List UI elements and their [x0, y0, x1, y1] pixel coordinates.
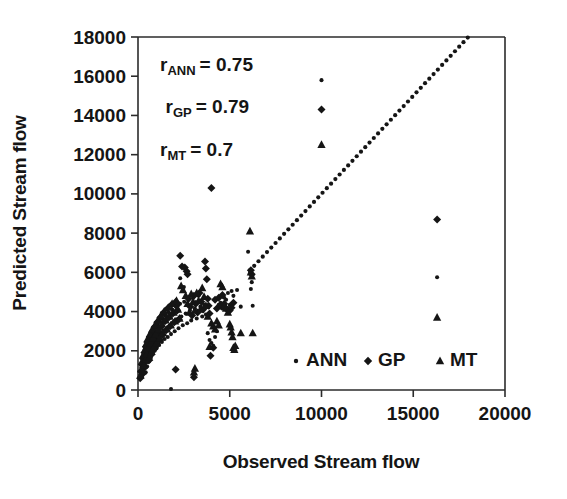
reference-line-dot	[410, 95, 414, 99]
reference-line-dot	[273, 241, 277, 245]
y-tick-label: 2000	[84, 340, 126, 361]
reference-line-dot	[376, 131, 380, 135]
y-axis-tick-labels: 0200040006000800010000120001400016000180…	[73, 27, 126, 401]
y-tick-label: 18000	[73, 27, 126, 48]
annotation-r-mt: rMT= 0.7	[160, 139, 233, 163]
reference-line-dot	[291, 223, 295, 227]
data-point-ann	[213, 335, 217, 339]
data-point-mt	[198, 284, 206, 292]
series-ann-points	[139, 78, 439, 391]
x-tick-label: 10000	[295, 403, 348, 424]
reference-line-dot	[385, 122, 389, 126]
reference-line-dot	[427, 77, 431, 81]
y-axis-ticks	[131, 37, 138, 390]
reference-line-dot	[449, 54, 453, 58]
reference-line-dot	[414, 90, 418, 94]
reference-line-dot	[295, 218, 299, 222]
data-point-ann	[435, 275, 439, 279]
data-point-mt	[317, 140, 325, 148]
data-point-gp	[172, 365, 180, 373]
y-tick-label: 4000	[84, 301, 126, 322]
data-point-mt	[231, 341, 239, 349]
reference-line-dot	[359, 150, 363, 154]
legend-marker-mt	[436, 356, 444, 364]
annotation-r-ann: rANN= 0.75	[160, 54, 253, 78]
reference-line-dot	[269, 245, 273, 249]
reference-line-dot	[252, 264, 256, 268]
data-point-ann	[319, 78, 323, 82]
reference-line-dot	[423, 81, 427, 85]
reference-line-dot	[440, 63, 444, 67]
data-point-gp	[318, 106, 326, 114]
reference-line-dot	[372, 136, 376, 140]
reference-line-dot	[308, 204, 312, 208]
reference-line-dot	[393, 113, 397, 117]
data-point-ann	[185, 321, 189, 325]
reference-line-dot	[329, 182, 333, 186]
reference-line-dot	[406, 99, 410, 103]
correlation-annotations: rANN= 0.75rGP= 0.79rMT= 0.7	[160, 54, 253, 162]
x-tick-label: 0	[133, 403, 144, 424]
y-tick-label: 6000	[84, 262, 126, 283]
data-point-ann	[181, 323, 185, 327]
data-point-gp	[206, 352, 214, 360]
y-tick-label: 16000	[73, 66, 126, 87]
data-point-ann	[178, 276, 182, 280]
reference-line-dot	[303, 209, 307, 213]
legend-label-ann: ANN	[306, 349, 347, 370]
data-point-ann	[235, 288, 239, 292]
reference-line-dot	[320, 191, 324, 195]
x-axis-title: Observed Stream flow	[223, 451, 420, 472]
reference-line-dot	[367, 140, 371, 144]
one-to-one-reference-line	[248, 35, 470, 272]
reference-line-dot	[316, 195, 320, 199]
y-tick-label: 14000	[73, 105, 126, 126]
data-point-gp	[176, 252, 184, 260]
data-point-ann	[246, 250, 250, 254]
data-point-ann	[173, 329, 177, 333]
data-point-gp	[203, 275, 211, 283]
y-tick-label: 12000	[73, 144, 126, 165]
data-point-gp	[433, 215, 441, 223]
annotation-value: = 0.7	[190, 139, 233, 160]
data-point-ann	[231, 294, 235, 298]
scatter-plot: 0200040006000800010000120001400016000180…	[0, 0, 567, 499]
legend-label-gp: GP	[378, 349, 406, 370]
reference-line-dot	[402, 104, 406, 108]
series-mt-points	[136, 140, 441, 378]
x-axis-tick-labels: 05000100001500020000	[133, 403, 532, 424]
reference-line-dot	[299, 213, 303, 217]
data-point-ann	[169, 332, 173, 336]
data-point-ann	[177, 326, 181, 330]
chart-figure: 0200040006000800010000120001400016000180…	[0, 0, 567, 499]
reference-line-dot	[350, 159, 354, 163]
y-tick-label: 10000	[73, 183, 126, 204]
reference-line-dot	[333, 177, 337, 181]
x-tick-label: 5000	[209, 403, 251, 424]
data-point-ann	[206, 331, 210, 335]
reference-line-dot	[389, 118, 393, 122]
data-point-ann	[249, 287, 253, 291]
reference-line-dot	[346, 163, 350, 167]
y-axis-title: Predicted Stream flow	[9, 115, 30, 311]
reference-line-dot	[312, 200, 316, 204]
chart-legend: ANNGPMT	[294, 349, 478, 370]
data-point-ann	[226, 291, 230, 295]
reference-line-dot	[436, 67, 440, 71]
data-point-gp	[207, 184, 215, 192]
data-point-mt	[433, 313, 441, 321]
x-tick-label: 15000	[387, 403, 440, 424]
reference-line-dot	[466, 35, 470, 39]
reference-line-dot	[453, 49, 457, 53]
data-point-ann	[230, 289, 234, 293]
data-point-mt	[237, 329, 245, 337]
reference-line-dot	[363, 145, 367, 149]
annotation-subscript: GP	[173, 105, 192, 120]
y-tick-label: 0	[115, 380, 126, 401]
reference-line-dot	[355, 154, 359, 158]
reference-line-dot	[419, 86, 423, 90]
reference-line-dot	[431, 72, 435, 76]
data-point-mt	[249, 329, 257, 337]
reference-line-dot	[397, 109, 401, 113]
reference-line-dot	[338, 172, 342, 176]
